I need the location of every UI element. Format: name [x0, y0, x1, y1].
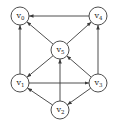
- node-subscript: 2: [61, 109, 65, 115]
- node-v2: v2: [51, 101, 69, 119]
- node-v0: v0: [11, 7, 29, 25]
- edge-v3-to-v2: [67, 88, 90, 105]
- edge-v3-to-v5: [67, 56, 91, 77]
- node-subscript: 5: [61, 49, 65, 55]
- node-v1: v1: [11, 74, 29, 92]
- edges-group: [20, 16, 98, 105]
- edge-v5-to-v1: [27, 56, 53, 78]
- node-v3: v3: [89, 74, 107, 92]
- node-subscript: 4: [99, 15, 103, 21]
- edge-v5-to-v4: [67, 22, 92, 44]
- directed-graph: v0v4v5v1v3v2: [0, 0, 115, 130]
- edge-v2-to-v1: [27, 88, 52, 105]
- node-v5: v5: [51, 41, 69, 59]
- node-v4: v4: [89, 7, 107, 25]
- edge-v5-to-v0: [27, 22, 53, 44]
- node-subscript: 3: [99, 82, 103, 88]
- node-subscript: 0: [21, 15, 25, 21]
- nodes-group: v0v4v5v1v3v2: [11, 7, 107, 119]
- node-subscript: 1: [21, 82, 25, 88]
